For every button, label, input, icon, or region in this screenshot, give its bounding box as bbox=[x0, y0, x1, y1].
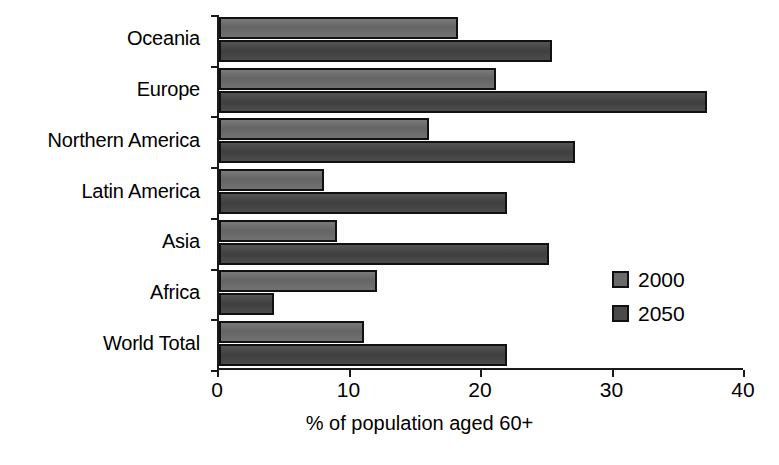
bar-2050-africa bbox=[219, 293, 274, 315]
bar-2050-world-total bbox=[219, 344, 507, 366]
category-axis-labels: OceaniaEuropeNorthern AmericaLatin Ameri… bbox=[0, 15, 208, 370]
legend-swatch-2050 bbox=[612, 305, 629, 322]
category-label-world-total: World Total bbox=[103, 333, 200, 353]
population-aging-bar-chart: OceaniaEuropeNorthern AmericaLatin Ameri… bbox=[0, 0, 779, 465]
category-label-europe: Europe bbox=[137, 79, 200, 99]
bar-2000-europe bbox=[219, 68, 496, 90]
y-axis-tick bbox=[211, 319, 217, 321]
x-tick-label-20: 20 bbox=[468, 378, 491, 402]
category-label-northern-america: Northern America bbox=[48, 130, 200, 150]
y-axis-tick bbox=[211, 116, 217, 118]
bar-2000-africa bbox=[219, 270, 377, 292]
legend-item-2000: 2000 bbox=[612, 262, 685, 296]
x-tick-label-0: 0 bbox=[211, 378, 223, 402]
bar-2000-asia bbox=[219, 220, 337, 242]
x-axis-tick bbox=[480, 370, 482, 377]
bar-2050-europe bbox=[219, 91, 707, 113]
x-axis-tick bbox=[612, 370, 614, 377]
bar-2000-world-total bbox=[219, 321, 364, 343]
bar-2000-northern-america bbox=[219, 118, 429, 140]
bar-group bbox=[219, 118, 745, 163]
legend-swatch-2000 bbox=[612, 271, 629, 288]
x-tick-label-10: 10 bbox=[337, 378, 360, 402]
x-axis-tick bbox=[349, 370, 351, 377]
legend-label-2000: 2000 bbox=[638, 269, 685, 290]
bar-2000-oceania bbox=[219, 17, 458, 39]
bar-2000-latin-america bbox=[219, 169, 324, 191]
x-axis-tick bbox=[217, 370, 219, 377]
x-axis-title-text: % of population aged 60+ bbox=[306, 412, 533, 435]
bar-group bbox=[219, 17, 745, 62]
category-label-oceania: Oceania bbox=[127, 28, 200, 48]
bar-2050-northern-america bbox=[219, 141, 575, 163]
y-axis-tick bbox=[211, 66, 217, 68]
bar-2050-latin-america bbox=[219, 192, 507, 214]
bar-group bbox=[219, 68, 745, 113]
y-axis-tick bbox=[211, 269, 217, 271]
legend-label-2050: 2050 bbox=[638, 303, 685, 324]
x-axis-title: % of population aged 60+ bbox=[0, 412, 779, 435]
x-tick-label-40: 40 bbox=[731, 378, 754, 402]
category-label-africa: Africa bbox=[150, 282, 200, 302]
chart-legend: 20002050 bbox=[612, 262, 685, 330]
bar-group bbox=[219, 169, 745, 214]
bar-group bbox=[219, 220, 745, 265]
y-axis-tick bbox=[211, 218, 217, 220]
x-axis-tick bbox=[743, 370, 745, 377]
category-label-latin-america: Latin America bbox=[81, 181, 200, 201]
category-label-asia: Asia bbox=[162, 231, 200, 251]
bar-2050-oceania bbox=[219, 40, 552, 62]
y-axis-tick bbox=[211, 167, 217, 169]
y-axis-tick bbox=[211, 15, 217, 17]
x-tick-label-30: 30 bbox=[600, 378, 623, 402]
bar-2050-asia bbox=[219, 243, 549, 265]
legend-item-2050: 2050 bbox=[612, 296, 685, 330]
